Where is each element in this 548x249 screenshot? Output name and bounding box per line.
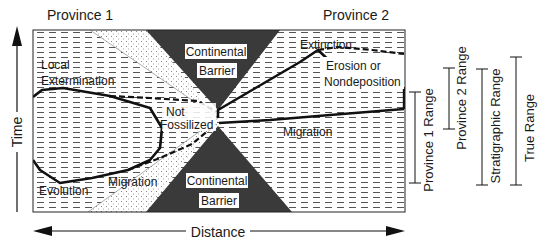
svg-text:Barrier: Barrier bbox=[199, 64, 235, 78]
erosion-label-1: Erosion or bbox=[326, 59, 381, 73]
distance-right-arrow-icon bbox=[386, 226, 405, 236]
local-extermination-label-2: Extermination bbox=[41, 74, 114, 88]
evolution-label: Evolution bbox=[39, 184, 88, 198]
distance-axis: Distance bbox=[33, 222, 405, 240]
local-extermination-label-1: Local bbox=[41, 58, 70, 72]
svg-text:Distance: Distance bbox=[191, 224, 246, 240]
migration-left-label: Migration bbox=[108, 175, 157, 189]
distance-left-arrow-icon bbox=[33, 226, 52, 236]
svg-text:Continental: Continental bbox=[187, 174, 248, 188]
province-1-range-bar bbox=[409, 92, 421, 183]
stratigraphic-range-label: Stratigraphic Range bbox=[488, 69, 503, 184]
svg-text:Time: Time bbox=[9, 116, 25, 147]
svg-text:Continental: Continental bbox=[186, 45, 247, 59]
time-axis: Time bbox=[9, 26, 25, 212]
time-arrow-icon bbox=[12, 26, 22, 46]
province-1-range-label: Province 1 Range bbox=[421, 88, 436, 191]
stratigraphic-range-diagram: Province 1 Province 2 Continental Barrie… bbox=[0, 0, 548, 249]
extinction-label: Extinction bbox=[300, 38, 352, 52]
true-range-bar bbox=[510, 57, 522, 185]
stratigraphic-range-bar bbox=[476, 69, 488, 185]
not-fossilized-label-2: Fossilized bbox=[160, 118, 213, 132]
not-fossilized-label-1: Not bbox=[166, 105, 185, 119]
true-range-label: True Range bbox=[522, 94, 537, 162]
migration-right-label: Migration bbox=[283, 125, 332, 139]
province-1-label: Province 1 bbox=[47, 7, 113, 23]
erosion-label-2: Nondeposition bbox=[324, 75, 401, 89]
province-2-range-label: Province 2 Range bbox=[454, 46, 469, 149]
svg-text:Barrier: Barrier bbox=[201, 194, 237, 208]
province-2-label: Province 2 bbox=[323, 7, 389, 23]
